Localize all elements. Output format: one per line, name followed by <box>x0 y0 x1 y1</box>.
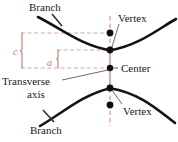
point-vertex-upper <box>107 47 114 54</box>
figure-canvas <box>0 0 178 142</box>
point-center <box>107 65 113 71</box>
point-focus-lower <box>107 102 114 109</box>
label-branch-bottom: Branch <box>30 124 62 136</box>
point-focus-upper <box>107 30 114 37</box>
label-transverse-axis-line1: Transverse <box>2 75 50 87</box>
label-branch-top: Branch <box>29 1 61 13</box>
label-c-measure: c <box>13 46 17 57</box>
leader-transverse-axis <box>62 70 108 80</box>
label-vertex-bottom: Vertex <box>123 105 152 117</box>
brace-a <box>56 50 58 68</box>
point-vertex-lower <box>107 85 114 92</box>
label-a-measure: a <box>47 57 52 68</box>
label-center: Center <box>121 62 150 74</box>
hyperbola-diagram: Branch Vertex Center Transverse axis Ver… <box>0 0 178 142</box>
leader-vertex-top <box>111 24 119 50</box>
brace-c <box>20 33 22 68</box>
label-transverse-axis-line2: axis <box>27 88 45 100</box>
label-vertex-top: Vertex <box>118 12 147 24</box>
